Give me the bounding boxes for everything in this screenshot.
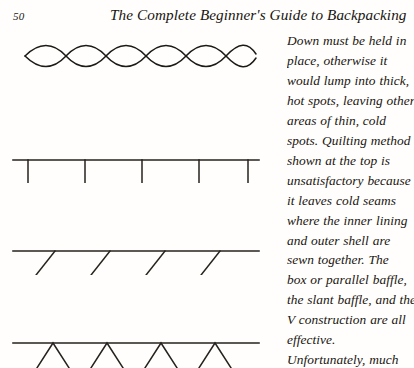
figure-box-parallel-baffle (0, 123, 278, 183)
text-line: where the inner lining (287, 211, 414, 231)
text-line: the slant baffle, and the (287, 290, 414, 310)
text-line: it leaves cold seams (287, 191, 414, 211)
text-line: Down must be held in (287, 31, 414, 51)
figure-slant-baffle (0, 215, 278, 275)
body-text-column: Down must be held in place, otherwise it… (287, 31, 414, 368)
figure-quilting-pattern (0, 36, 278, 76)
text-line: sewn together. The (287, 250, 414, 270)
text-line: would lump into thick, (287, 71, 414, 91)
text-line: place, otherwise it (287, 51, 414, 71)
text-line: shown at the top is (287, 151, 414, 171)
page-number: 50 (13, 10, 24, 22)
text-line: hot spots, leaving other (287, 91, 414, 111)
text-line: and outer shell are (287, 231, 414, 251)
figure-v-construction-baffle (0, 307, 278, 368)
text-line: V construction are all (287, 310, 414, 330)
paragraph-2: Unfortunately, much hand work is needed … (287, 350, 414, 368)
paragraph-1: Down must be held in place, otherwise it… (287, 31, 414, 350)
text-line: unsatisfactory because (287, 171, 414, 191)
running-head-title: The Complete Beginner's Guide to Backpac… (110, 6, 414, 24)
figures-column (0, 30, 278, 368)
book-page: 50 The Complete Beginner's Guide to Back… (0, 0, 414, 368)
text-line: box or parallel baffle, (287, 270, 414, 290)
text-line: effective. (287, 330, 414, 350)
text-line: spots. Quilting method (287, 131, 414, 151)
text-line: Unfortunately, much (287, 350, 414, 368)
text-line: areas of thin, cold (287, 111, 414, 131)
